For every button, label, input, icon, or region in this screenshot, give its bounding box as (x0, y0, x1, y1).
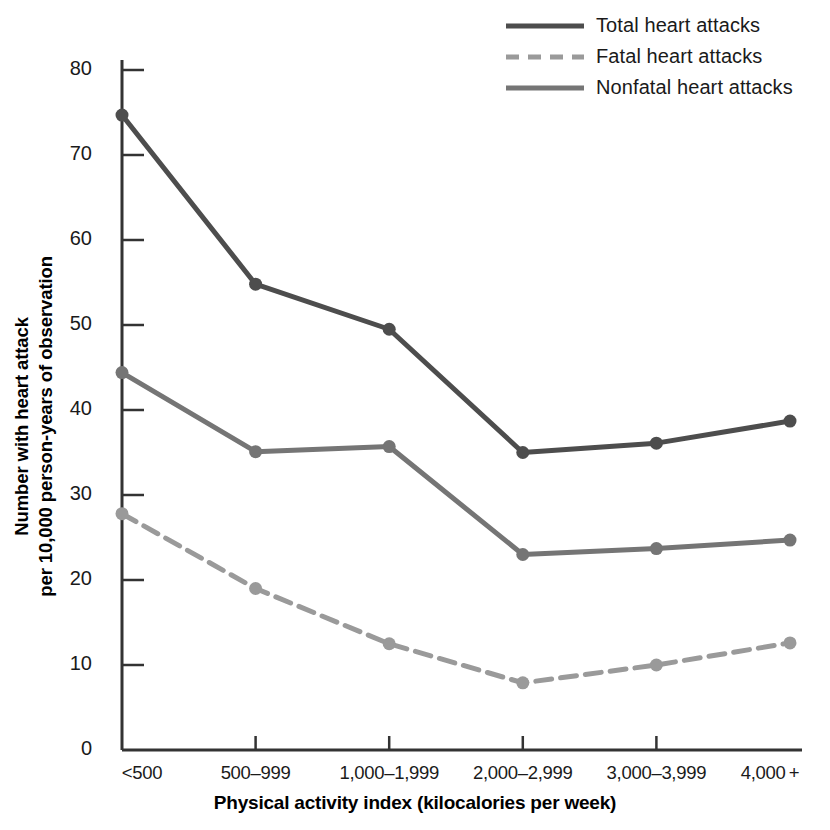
data-point (516, 676, 529, 689)
plot-area: Number with heart attack per 10,000 pers… (0, 0, 830, 830)
x-axis-title: Physical activity index (kilocalories pe… (0, 792, 830, 814)
data-point (784, 636, 797, 649)
data-point (249, 582, 262, 595)
data-point (116, 366, 129, 379)
data-point (116, 507, 129, 520)
series-line-nonfatal (122, 373, 790, 555)
data-point (784, 534, 797, 547)
data-point (116, 109, 129, 122)
data-point (383, 440, 396, 453)
chart-canvas (0, 0, 830, 830)
series-markers (116, 109, 797, 690)
data-point (650, 542, 663, 555)
data-point (516, 446, 529, 459)
data-point (249, 445, 262, 458)
data-point (383, 323, 396, 336)
data-point (784, 415, 797, 428)
data-point (383, 637, 396, 650)
data-point (650, 659, 663, 672)
series-line-fatal (122, 514, 790, 683)
series-line-total (122, 115, 790, 452)
chart-page: Total heart attacks Fatal heart attacks … (0, 0, 830, 830)
axis-lines (122, 60, 802, 750)
data-point (516, 548, 529, 561)
series-lines (122, 115, 790, 683)
data-point (249, 278, 262, 291)
data-point (650, 437, 663, 450)
